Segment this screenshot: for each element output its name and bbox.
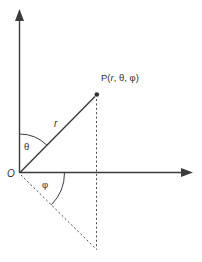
projection-dashed-line <box>21 175 97 250</box>
theta-label: θ <box>24 141 29 152</box>
origin-label: O <box>7 168 15 179</box>
vertical-axis-arrowhead-icon <box>15 9 24 21</box>
point-p-label: P(r, θ, φ) <box>101 72 139 83</box>
phi-angle-arc <box>51 173 64 205</box>
spherical-coordinates-figure: O θ φ r P(r, θ, φ) <box>0 0 202 262</box>
point-p-label-suffix: , θ, φ) <box>114 72 139 83</box>
point-p-marker <box>95 92 100 97</box>
diagram-canvas: O θ φ r P(r, θ, φ) <box>0 0 202 262</box>
horizontal-axis-arrowhead-icon <box>181 168 193 177</box>
radius-vector <box>20 97 95 173</box>
phi-label: φ <box>42 179 48 190</box>
radius-label: r <box>54 118 58 129</box>
